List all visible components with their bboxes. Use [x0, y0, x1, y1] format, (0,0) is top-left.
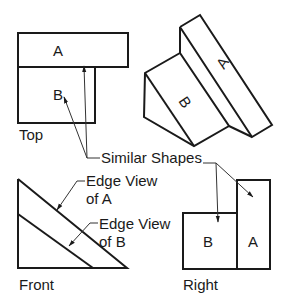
edge-view-a-line1: Edge View — [86, 172, 158, 189]
edge-view-a-line2: of A — [86, 190, 112, 207]
diagram-canvas: A B Top B A Front B A Right Similar Shap… — [0, 0, 289, 302]
top-view-label-b: B — [53, 86, 63, 103]
edge-view-a-annotation: Edge View of A — [57, 172, 158, 210]
top-view-label-a: A — [53, 42, 63, 59]
top-view: A B Top — [18, 33, 128, 143]
right-view-caption: Right — [183, 276, 219, 293]
right-view-label-a: A — [248, 233, 258, 250]
isometric-label-a: A — [212, 54, 232, 72]
top-view-caption: Top — [19, 126, 43, 143]
isometric-label-b: B — [176, 93, 196, 111]
isometric-view: B A — [144, 15, 272, 146]
right-view-label-b: B — [203, 233, 213, 250]
right-view: B A Right — [183, 180, 270, 293]
right-view-face-a — [237, 180, 270, 269]
edge-view-b-line1: Edge View — [99, 215, 171, 232]
similar-shapes-label: Similar Shapes — [101, 149, 202, 166]
front-view-caption: Front — [19, 276, 55, 293]
edge-view-b-line2: of B — [99, 233, 126, 250]
top-view-face-a — [18, 33, 128, 67]
